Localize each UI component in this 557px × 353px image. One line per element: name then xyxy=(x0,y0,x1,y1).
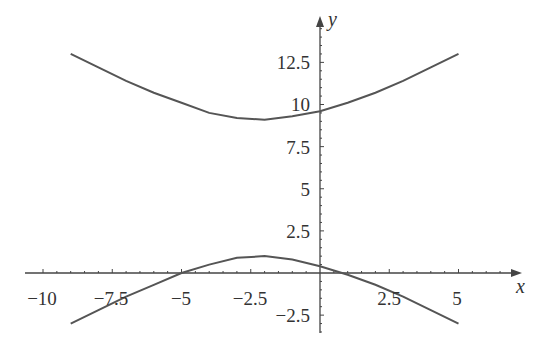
y-tick-label: 10 xyxy=(291,94,310,115)
y-axis-arrow-icon xyxy=(316,16,324,27)
x-tick-label: −5 xyxy=(171,288,191,309)
x-tick-label: −2.5 xyxy=(233,288,267,309)
x-axis-label: x xyxy=(515,275,525,297)
upper-branch-curve xyxy=(71,54,459,120)
y-tick-label: 12.5 xyxy=(277,52,310,73)
plot-svg: −10 −7.5 −5 −2.5 2.5 5 12.5 10 7.5 5 2.5… xyxy=(0,0,557,353)
x-tick-label: −7.5 xyxy=(94,288,128,309)
x-tick-label: −10 xyxy=(27,288,57,309)
x-tick-label: 5 xyxy=(452,288,462,309)
y-tick-label: 7.5 xyxy=(286,137,310,158)
chart: −10 −7.5 −5 −2.5 2.5 5 12.5 10 7.5 5 2.5… xyxy=(0,0,557,353)
y-tick-label: 5 xyxy=(301,179,311,200)
y-tick-label: −2.5 xyxy=(276,305,310,326)
y-axis-label: y xyxy=(326,8,337,31)
y-tick-label: 2.5 xyxy=(286,221,310,242)
x-tick-label: 2.5 xyxy=(377,288,401,309)
